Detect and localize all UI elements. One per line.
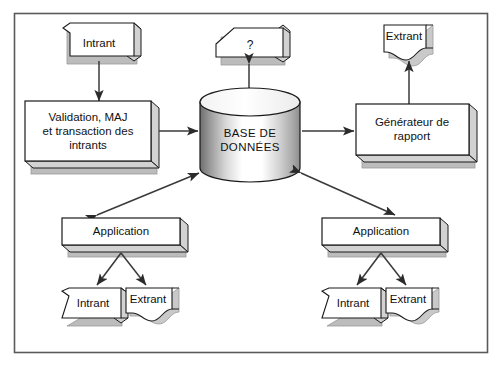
validation-label-line2: et transaction des bbox=[43, 125, 134, 137]
application-right-bottom bbox=[322, 245, 448, 252]
node-application-left[interactable]: Application bbox=[62, 218, 188, 257]
generateur-label-line1: Générateur de bbox=[375, 116, 449, 128]
extrant-top-right-label: Extrant bbox=[386, 30, 423, 42]
node-application-right[interactable]: Application bbox=[322, 218, 448, 257]
diagram-canvas: Intrant Validation, MAJ et transaction d… bbox=[0, 0, 504, 365]
application-right-label: Application bbox=[353, 225, 409, 237]
database-label-line2: DONNÉES bbox=[220, 141, 280, 153]
validation-label-line1: Validation, MAJ bbox=[48, 111, 127, 123]
application-left-label: Application bbox=[93, 225, 149, 237]
intrant-bottom-right-label: Intrant bbox=[337, 297, 370, 309]
node-database[interactable]: BASE DE DONNÉES bbox=[200, 88, 300, 182]
validation-label-line3: intrants bbox=[69, 139, 107, 151]
generateur-bottom bbox=[356, 155, 477, 162]
extrant-bottom-left-label: Extrant bbox=[130, 293, 167, 305]
validation-bottom bbox=[25, 161, 159, 168]
question-label: ? bbox=[247, 38, 254, 52]
node-intrant-top-left[interactable]: Intrant bbox=[63, 23, 141, 64]
application-left-bottom bbox=[62, 245, 188, 252]
extrant-bottom-right-label: Extrant bbox=[390, 293, 427, 305]
generateur-label-line2: rapport bbox=[394, 130, 431, 142]
database-top bbox=[200, 88, 300, 116]
node-validation[interactable]: Validation, MAJ et transaction des intra… bbox=[25, 101, 159, 174]
database-label-line1: BASE DE bbox=[224, 127, 277, 139]
validation-side bbox=[151, 101, 159, 168]
intrant-top-left-label: Intrant bbox=[83, 37, 116, 49]
generateur-side bbox=[469, 104, 477, 162]
system-architecture-diagram: Intrant Validation, MAJ et transaction d… bbox=[0, 0, 504, 365]
node-generateur[interactable]: Générateur de rapport bbox=[356, 104, 477, 168]
intrant-bottom-left-label: Intrant bbox=[77, 297, 110, 309]
